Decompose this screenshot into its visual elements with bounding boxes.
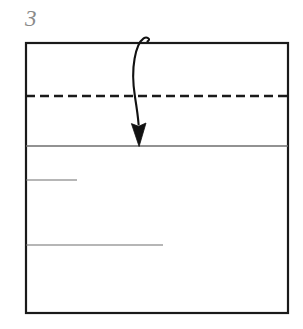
diagram-canvas [0, 0, 303, 329]
paper-outline [26, 43, 288, 313]
origami-step-figure: 3 [0, 0, 303, 329]
